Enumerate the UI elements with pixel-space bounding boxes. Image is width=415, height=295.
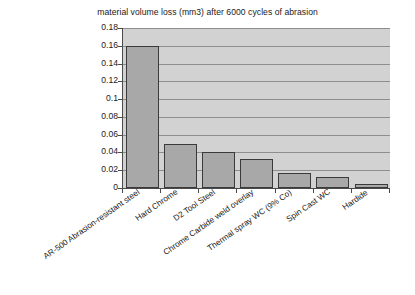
x-axis-tick-mark <box>351 189 352 193</box>
x-axis-tick-mark <box>236 189 237 193</box>
y-axis-tick-mark <box>118 99 122 100</box>
y-axis: 0.180.160.140.120.10.080.060.040.020 <box>76 28 118 188</box>
y-axis-tick-label: 0.12 <box>78 76 118 85</box>
x-axis-tick-mark <box>389 189 390 193</box>
y-axis-tick-label: 0.06 <box>78 130 118 139</box>
gridline <box>123 99 390 100</box>
chart-title: material volume loss (mm3) after 6000 cy… <box>0 7 415 17</box>
gridline <box>123 46 390 47</box>
y-axis-tick-label: 0 <box>78 183 118 192</box>
x-axis-category-label: AR-500 Abrasion-resistant steel <box>42 188 141 261</box>
bar[interactable] <box>278 173 311 188</box>
bar[interactable] <box>164 144 197 188</box>
y-axis-tick-mark <box>118 46 122 47</box>
bar-chart: material volume loss (mm3) after 6000 cy… <box>0 0 415 295</box>
x-axis-tick-mark <box>313 189 314 193</box>
y-axis-tick-label: 0.16 <box>78 41 118 50</box>
gridline <box>123 81 390 82</box>
y-axis-tick-mark <box>118 170 122 171</box>
x-axis-tick-mark <box>160 189 161 193</box>
y-axis-tick-mark <box>118 135 122 136</box>
bar[interactable] <box>202 152 235 188</box>
gridline <box>123 135 390 136</box>
x-axis-tick-mark <box>198 189 199 193</box>
y-axis-tick-mark <box>118 81 122 82</box>
bar[interactable] <box>316 177 349 188</box>
gridline <box>123 64 390 65</box>
gridline <box>123 28 390 29</box>
y-axis-tick-mark <box>118 152 122 153</box>
y-axis-tick-mark <box>118 64 122 65</box>
y-axis-tick-label: 0.1 <box>78 94 118 103</box>
y-axis-tick-label: 0.08 <box>78 112 118 121</box>
x-axis-category-label: Hardide <box>341 188 370 212</box>
y-axis-tick-mark <box>118 117 122 118</box>
gridline <box>123 117 390 118</box>
y-axis-tick-label: 0.18 <box>78 23 118 32</box>
bar[interactable] <box>126 46 159 188</box>
y-axis-tick-mark <box>118 28 122 29</box>
bar[interactable] <box>355 184 388 188</box>
y-axis-tick-label: 0.02 <box>78 165 118 174</box>
x-axis-tick-mark <box>122 189 123 193</box>
bar[interactable] <box>240 159 273 188</box>
plot-area <box>122 28 390 189</box>
x-axis-tick-mark <box>275 189 276 193</box>
y-axis-tick-label: 0.04 <box>78 147 118 156</box>
y-axis-tick-label: 0.14 <box>78 59 118 68</box>
